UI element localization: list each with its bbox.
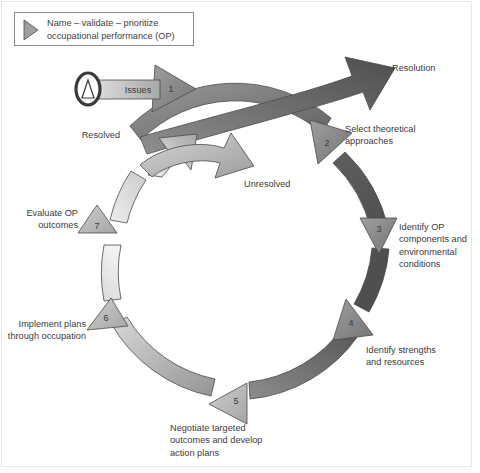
step-number-3: 3 xyxy=(372,224,386,234)
diagram-figure: Name – validate – prioritize occupationa… xyxy=(0,0,480,473)
step-4-label: Identify strengths and resources xyxy=(366,344,470,369)
step-number-5: 5 xyxy=(229,396,243,406)
unresolved-label: Unresolved xyxy=(244,178,320,190)
cycle-segment-5-6 xyxy=(112,317,215,396)
cycle-segment-7-1 xyxy=(110,171,146,223)
step-7-label: Evaluate OP outcomes xyxy=(8,207,78,232)
start-oval-icon xyxy=(76,73,100,105)
step-3-label: Identify OP components and environmental… xyxy=(399,221,477,270)
step-number-2: 2 xyxy=(320,138,334,148)
cycle-segment-3-4 xyxy=(354,248,389,312)
triangle-right-icon xyxy=(23,19,39,41)
step-2-label: Select theoretical approaches xyxy=(345,123,455,148)
legend-box: Name – validate – prioritize occupationa… xyxy=(14,12,194,46)
resolved-label: Resolved xyxy=(58,129,120,141)
step-number-4: 4 xyxy=(344,318,358,328)
step-number-1: 1 xyxy=(164,84,178,94)
step-number-7: 7 xyxy=(90,221,104,231)
resolution-label: Resolution xyxy=(392,62,472,74)
legend-text: Name – validate – prioritize occupationa… xyxy=(47,17,175,42)
step-number-6: 6 xyxy=(99,313,113,323)
cycle-segment-6-7 xyxy=(101,245,121,301)
step-6-label: Implement plans through occupation xyxy=(4,318,86,343)
issues-label: Issues xyxy=(117,84,159,96)
step-5-label: Negotiate targeted outcomes and develop … xyxy=(170,422,298,459)
